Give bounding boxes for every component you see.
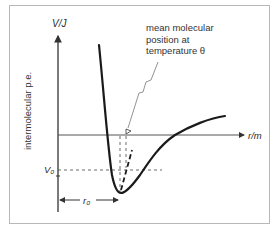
- x-axis-label: r/m: [248, 130, 262, 141]
- r0-label: r₀: [83, 195, 90, 206]
- annotation-line-1: mean molecular: [146, 22, 256, 34]
- annotation-line-3: temperature θ: [146, 45, 256, 57]
- mean-position-annotation: mean molecular position at temperature θ: [146, 22, 256, 57]
- v0-label: V₀: [44, 164, 54, 175]
- mean-position-marker: [126, 129, 131, 134]
- potential-curve: [99, 45, 225, 193]
- y-axis-side-label: intermolecular p.e.: [22, 72, 33, 150]
- annotation-leader-line: [128, 62, 158, 128]
- y-axis-label: V/J: [52, 18, 66, 29]
- annotation-line-2: position at: [146, 34, 256, 46]
